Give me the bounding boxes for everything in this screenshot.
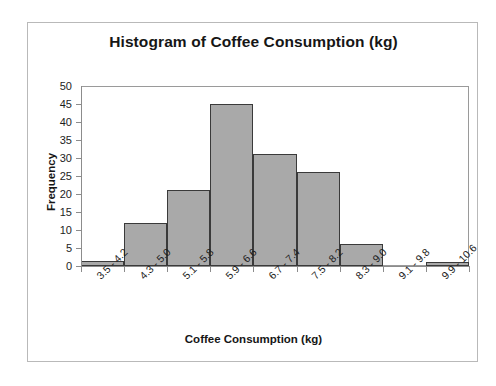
histogram-bar-cell <box>426 86 469 266</box>
histogram-bar-cell <box>297 86 340 266</box>
chart-page-frame: Histogram of Coffee Consumption (kg) Fre… <box>27 22 478 362</box>
histogram-bar-cell <box>124 86 167 266</box>
histogram-bar <box>210 104 253 266</box>
y-axis-tick <box>76 230 82 231</box>
x-axis-tick <box>297 267 298 272</box>
y-axis-tick-label: 50 <box>28 80 72 92</box>
x-axis-tick <box>210 267 211 272</box>
y-axis-tick-label: 25 <box>28 170 72 182</box>
x-axis-tick-labels: 3.5 - 4.24.3 - 5.05.1 - 5.85.9 - 6.66.7 … <box>81 273 469 333</box>
chart-title: Histogram of Coffee Consumption (kg) <box>28 33 479 51</box>
y-axis-tick <box>76 122 82 123</box>
y-axis-tick-label: 40 <box>28 116 72 128</box>
y-axis-tick <box>76 140 82 141</box>
y-axis-tick <box>76 194 82 195</box>
histogram-bar-cell <box>210 86 253 266</box>
y-axis-tick-label: 30 <box>28 152 72 164</box>
y-axis-tick <box>76 176 82 177</box>
y-axis-tick-label: 45 <box>28 98 72 110</box>
y-axis-tick-label: 10 <box>28 224 72 236</box>
y-axis-tick-label: 0 <box>28 260 72 272</box>
x-axis-tick <box>469 267 470 272</box>
x-axis-tick <box>167 267 168 272</box>
y-axis-tick-label: 5 <box>28 242 72 254</box>
y-axis-tick-label: 15 <box>28 206 72 218</box>
x-axis-tick <box>383 267 384 272</box>
y-axis-tick <box>76 104 82 105</box>
histogram-bar-cell <box>253 86 296 266</box>
x-axis-title: Coffee Consumption (kg) <box>28 333 479 345</box>
x-axis-tick <box>426 267 427 272</box>
x-axis-tick <box>124 267 125 272</box>
histogram-bar-cell <box>383 86 426 266</box>
x-axis-tick <box>340 267 341 272</box>
y-axis-tick-label: 20 <box>28 188 72 200</box>
histogram-bar-cell <box>340 86 383 266</box>
x-axis-tick <box>253 267 254 272</box>
y-axis-tick <box>76 212 82 213</box>
histogram-bars <box>81 86 469 266</box>
y-axis-tick-label: 35 <box>28 134 72 146</box>
y-axis-tick <box>76 248 82 249</box>
x-axis-tick <box>81 267 82 272</box>
histogram-bar-cell <box>81 86 124 266</box>
histogram-bar-cell <box>167 86 210 266</box>
y-axis-tick <box>76 158 82 159</box>
